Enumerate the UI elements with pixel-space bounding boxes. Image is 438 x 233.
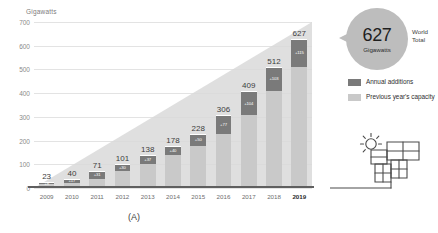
legend-item-label: Previous year's capacity <box>366 93 435 101</box>
gridline: 0 <box>34 188 312 189</box>
stacked-bar[interactable]: 409+104 <box>241 91 257 188</box>
bar-addition-label: +40 <box>170 149 177 153</box>
callout-unit: Gigawatts <box>363 46 391 53</box>
bar-segment-previous-capacity[interactable] <box>291 67 307 188</box>
bar-addition-label: +31 <box>94 173 101 177</box>
bar-total-label: 512 <box>267 57 280 66</box>
bar-slot: 40+17 <box>59 22 84 188</box>
bar-segment-annual-additions[interactable]: +103 <box>266 67 282 91</box>
chart-legend: Annual additionsPrevious year's capacity <box>348 78 438 109</box>
bar-slot: 23+8 <box>34 22 59 188</box>
stacked-bar[interactable]: 512+103 <box>266 67 282 188</box>
bar-series-group: 23+840+1771+31101+30138+37178+40228+5030… <box>34 22 312 188</box>
bar-addition-label: +104 <box>244 102 253 106</box>
bar-total-label: 178 <box>166 136 179 145</box>
x-axis-tick-label: 2013 <box>135 190 160 204</box>
bar-addition-label: +30 <box>119 166 126 170</box>
bar-total-label: 71 <box>93 161 102 170</box>
solar-panel-sun-icon <box>330 120 438 215</box>
bar-slot: 627+115 <box>287 22 312 188</box>
bar-segment-annual-additions[interactable]: +31 <box>89 171 105 178</box>
bar-slot: 512+103 <box>261 22 286 188</box>
bar-total-label: 409 <box>242 81 255 90</box>
bar-segment-previous-capacity[interactable] <box>266 91 282 188</box>
stacked-bar[interactable]: 101+30 <box>115 164 131 188</box>
bar-segment-previous-capacity[interactable] <box>140 164 156 188</box>
bar-total-label: 306 <box>217 105 230 114</box>
y-axis-tick-label: 200 <box>19 137 30 144</box>
bar-total-label: 627 <box>293 29 306 38</box>
bar-slot: 306+77 <box>211 22 236 188</box>
legend-swatch-light <box>348 94 361 101</box>
legend-item[interactable]: Annual additions <box>348 78 438 86</box>
y-axis-tick-label: 300 <box>19 113 30 120</box>
bar-slot: 178+40 <box>160 22 185 188</box>
x-axis-tick-label: 2019 <box>287 190 312 204</box>
bar-segment-annual-additions[interactable]: +17 <box>64 179 80 183</box>
bar-addition-label: +115 <box>295 51 304 55</box>
y-axis-tick-label: 400 <box>19 90 30 97</box>
bar-total-label: 138 <box>141 145 154 154</box>
bar-segment-annual-additions[interactable]: +30 <box>115 164 131 171</box>
stacked-bar[interactable]: 138+37 <box>140 155 156 188</box>
world-total-callout: 627 Gigawatts <box>346 8 408 70</box>
callout-label-line1: World <box>412 28 428 36</box>
plot-area: 0100200300400500600700 23+840+1771+31101… <box>34 22 312 188</box>
legend-item[interactable]: Previous year's capacity <box>348 93 438 101</box>
bar-addition-label: +50 <box>195 138 202 142</box>
figure-panel-a: Gigawatts 0100200300400500600700 23+840+… <box>0 0 438 233</box>
y-axis-tick-label: 500 <box>19 66 30 73</box>
bar-addition-label: +103 <box>269 77 278 81</box>
legend-item-label: Annual additions <box>366 78 413 86</box>
bar-segment-annual-additions[interactable]: +37 <box>140 155 156 164</box>
bar-slot: 138+37 <box>135 22 160 188</box>
stacked-bar[interactable]: 306+77 <box>216 115 232 188</box>
bar-slot: 71+31 <box>85 22 110 188</box>
x-axis-tick-label: 2009 <box>34 190 59 204</box>
callout-label-line2: Total <box>412 36 428 44</box>
bar-segment-previous-capacity[interactable] <box>165 155 181 188</box>
x-axis-tick-label: 2018 <box>261 190 286 204</box>
bar-segment-annual-additions[interactable]: +8 <box>39 182 55 184</box>
x-axis-tick-label: 2016 <box>211 190 236 204</box>
callout-label: World Total <box>412 28 428 45</box>
y-axis-tick-label: 600 <box>19 42 30 49</box>
bar-total-label: 40 <box>67 169 76 178</box>
bar-segment-previous-capacity[interactable] <box>190 146 206 188</box>
bar-segment-previous-capacity[interactable] <box>241 115 257 188</box>
x-axis-tick-label: 2017 <box>236 190 261 204</box>
bar-addition-label: +37 <box>144 158 151 162</box>
x-axis-tick-label: 2010 <box>59 190 84 204</box>
bar-addition-label: +77 <box>220 123 227 127</box>
bar-slot: 228+50 <box>186 22 211 188</box>
bar-slot: 101+30 <box>110 22 135 188</box>
stacked-bar[interactable]: 178+40 <box>165 146 181 188</box>
bar-total-label: 228 <box>192 124 205 133</box>
x-axis-tick-label: 2011 <box>85 190 110 204</box>
callout-value: 627 <box>362 26 391 44</box>
bar-addition-label: +17 <box>68 179 75 183</box>
bar-segment-annual-additions[interactable]: +104 <box>241 91 257 115</box>
bar-slot: 409+104 <box>236 22 261 188</box>
legend-swatch-dark <box>348 79 361 86</box>
y-axis-title: Gigawatts <box>26 8 57 15</box>
bar-segment-previous-capacity[interactable] <box>216 134 232 188</box>
x-axis-tick-label: 2015 <box>186 190 211 204</box>
stacked-bar[interactable]: 228+50 <box>190 134 206 188</box>
bar-segment-annual-additions[interactable]: +77 <box>216 115 232 133</box>
x-axis-baseline <box>28 186 314 188</box>
bar-segment-annual-additions[interactable]: +115 <box>291 39 307 66</box>
bar-segment-annual-additions[interactable]: +50 <box>190 134 206 146</box>
x-axis-tick-label: 2014 <box>160 190 185 204</box>
y-axis-tick-label: 100 <box>19 161 30 168</box>
x-axis-labels: 2009201020112012201320142015201620172018… <box>34 190 312 204</box>
stacked-bar[interactable]: 627+115 <box>291 39 307 188</box>
figure-caption-text: (A) <box>128 212 140 222</box>
bar-segment-annual-additions[interactable]: +40 <box>165 146 181 155</box>
y-axis-tick-label: 700 <box>19 19 30 26</box>
x-axis-tick-label: 2012 <box>110 190 135 204</box>
bar-total-label: 101 <box>116 154 129 163</box>
